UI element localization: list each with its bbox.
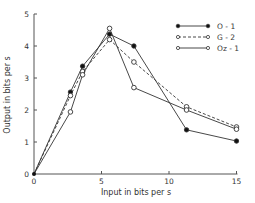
legend-marker xyxy=(206,46,209,49)
line-chart: 051015012345 O - 1G - 2Oz - 1 Input in b… xyxy=(0,0,255,203)
x-tick-label: 15 xyxy=(232,177,242,186)
legend-marker xyxy=(206,35,209,38)
y-tick-label: 4 xyxy=(24,42,29,51)
legend-marker xyxy=(176,35,179,38)
y-axis-label: Output in bits per s xyxy=(3,56,12,133)
series-o-1 xyxy=(34,32,239,174)
open-circle-marker xyxy=(68,93,73,98)
y-tick-label: 2 xyxy=(24,106,29,115)
series-line xyxy=(34,28,237,174)
y-tick-label: 3 xyxy=(24,74,29,83)
filled-circle-marker xyxy=(80,64,84,68)
x-tick-label: 0 xyxy=(32,177,37,186)
open-circle-marker xyxy=(234,127,239,132)
series-line xyxy=(34,34,237,174)
open-circle-marker xyxy=(132,85,137,90)
x-axis-label: Input in bits per s xyxy=(101,188,171,197)
legend: O - 1G - 2Oz - 1 xyxy=(176,22,239,53)
filled-circle-marker xyxy=(234,139,238,143)
legend-marker xyxy=(176,46,179,49)
legend-marker xyxy=(206,24,210,28)
x-tick-label: 5 xyxy=(99,177,104,186)
filled-circle-marker xyxy=(132,44,136,48)
y-tick-label: 1 xyxy=(24,138,29,147)
legend-marker xyxy=(176,24,180,28)
open-circle-marker xyxy=(68,110,73,115)
open-circle-marker xyxy=(107,26,112,31)
open-circle-marker xyxy=(107,37,112,42)
filled-circle-marker xyxy=(184,128,188,132)
legend-label: G - 2 xyxy=(217,33,235,42)
open-circle-marker xyxy=(184,108,189,113)
open-circle-marker xyxy=(132,60,137,65)
legend-label: Oz - 1 xyxy=(217,44,239,53)
y-tick-label: 5 xyxy=(24,10,29,19)
open-circle-marker xyxy=(80,73,85,78)
x-tick-label: 10 xyxy=(164,177,174,186)
y-tick-label: 0 xyxy=(24,170,29,179)
origin-marker xyxy=(32,172,36,176)
legend-label: O - 1 xyxy=(217,22,235,31)
